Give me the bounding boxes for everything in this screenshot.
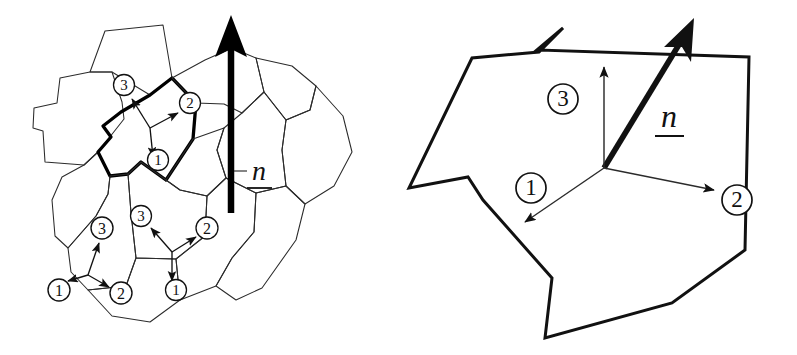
axis-2-arrow (88, 275, 109, 287)
axis-2-arrow (150, 113, 178, 128)
single-grain-facet-panel: 3 1 2 n (397, 0, 797, 355)
normal-label-right: n (655, 98, 684, 136)
axis-1-label: 1 (172, 282, 180, 298)
axis-2-label: 2 (203, 220, 211, 237)
triad-lower-left-grain-labels: 3 1 2 (48, 217, 132, 304)
grain-polygon (282, 86, 352, 204)
normal-label-text: n (252, 155, 266, 186)
triad-lower-middle-grain-labels: 3 2 1 (131, 206, 219, 301)
axis-3-label: 3 (120, 77, 128, 93)
axis-3-label: 3 (98, 220, 106, 237)
axis-2-label: 2 (117, 285, 125, 302)
triad-single-grain-labels: 3 1 2 (516, 84, 752, 215)
polycrystal-aggregate-svg: 3 2 1 3 (0, 0, 400, 355)
axis-3-arrow (88, 243, 99, 275)
axis-3-label: 3 (137, 208, 145, 224)
circled-number-3: 3 (114, 75, 135, 96)
grain-facet-polygon (409, 28, 749, 338)
circled-number-3: 3 (548, 84, 578, 114)
triad-lower-middle-grain (151, 228, 196, 281)
normal-label-text: n (661, 98, 677, 134)
axis-2-arrow (604, 168, 714, 190)
axis-2-label: 2 (186, 95, 194, 111)
circled-number-1: 1 (516, 173, 546, 203)
circled-number-3: 3 (91, 217, 113, 239)
circled-number-2: 2 (196, 217, 218, 239)
axis-3-label: 3 (557, 86, 569, 111)
single-grain-facet-svg: 3 1 2 n (397, 0, 797, 355)
normal-arrow (604, 18, 694, 168)
circled-number-2: 2 (722, 185, 752, 215)
polycrystal-aggregate-panel: 3 2 1 3 (0, 0, 400, 355)
axis-2-label: 2 (731, 187, 743, 212)
axis-3-arrow (151, 228, 172, 252)
circled-number-1: 1 (166, 280, 187, 301)
normal-label-left: n (247, 155, 272, 188)
grain-polygon (176, 178, 256, 300)
circled-number-1: 1 (148, 150, 169, 171)
triad-lower-left-grain (68, 243, 109, 287)
axis-2-arrow (172, 237, 196, 252)
triad-highlighted-grain (132, 99, 178, 157)
circled-number-3: 3 (131, 206, 152, 227)
axis-3-arrow (132, 99, 150, 128)
axis-1-label: 1 (55, 282, 63, 299)
figure-root: 3 2 1 3 (0, 0, 797, 355)
circled-number-1: 1 (48, 279, 70, 301)
axis-1-label: 1 (525, 175, 537, 200)
axis-1-label: 1 (154, 152, 162, 168)
circled-number-2: 2 (180, 93, 201, 114)
circled-number-2: 2 (110, 282, 132, 304)
